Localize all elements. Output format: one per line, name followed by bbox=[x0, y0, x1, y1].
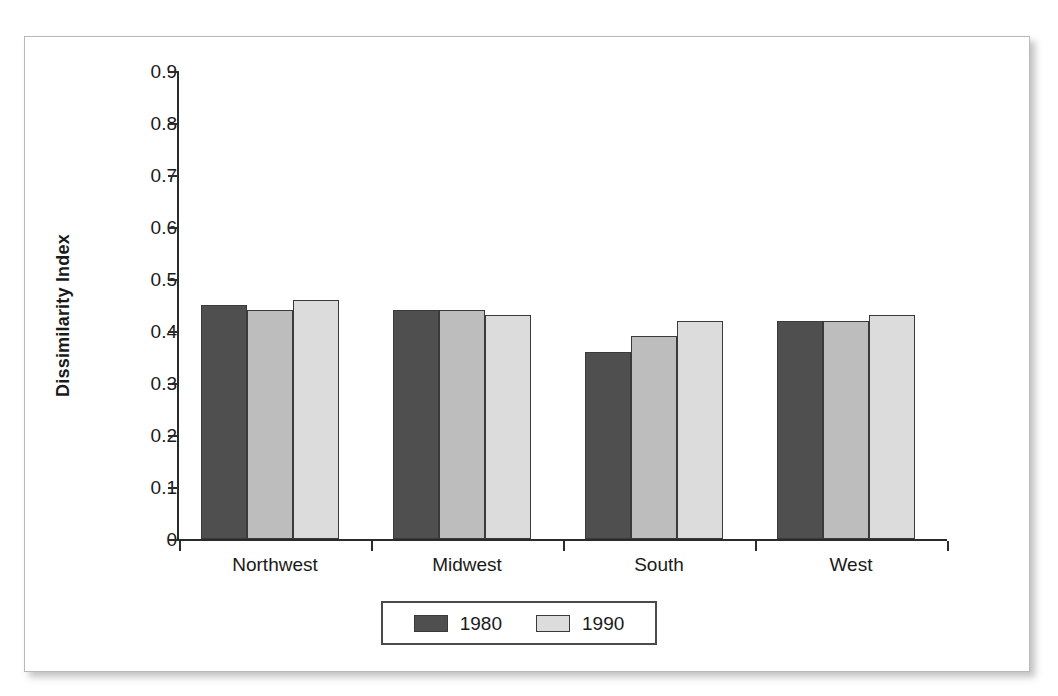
y-tick-mark bbox=[168, 331, 177, 333]
x-tick-mark bbox=[947, 541, 949, 551]
y-tick-mark bbox=[168, 539, 177, 541]
x-tick-mark bbox=[563, 541, 565, 551]
bar bbox=[585, 352, 631, 539]
y-axis-line bbox=[177, 71, 179, 541]
bar bbox=[201, 305, 247, 539]
x-axis-label: South bbox=[563, 555, 755, 574]
bar bbox=[293, 300, 339, 539]
chart-card: Dissimilarity Index 0.90.80.70.60.50.40.… bbox=[24, 36, 1030, 672]
x-tick-mark bbox=[371, 541, 373, 551]
bar bbox=[631, 336, 677, 539]
y-axis-title: Dissimilarity Index bbox=[53, 196, 74, 436]
bar bbox=[439, 310, 485, 539]
bar bbox=[247, 310, 293, 539]
legend-item: 1980 bbox=[414, 614, 502, 633]
bar bbox=[393, 310, 439, 539]
y-tick-mark bbox=[168, 383, 177, 385]
x-axis-label: Midwest bbox=[371, 555, 563, 574]
chart-legend: 1980 1990 bbox=[381, 601, 657, 645]
legend-item: 1990 bbox=[536, 614, 624, 633]
bar bbox=[677, 321, 723, 539]
x-tick-mark bbox=[179, 541, 181, 551]
x-axis-label: Northwest bbox=[179, 555, 371, 574]
x-axis-label: West bbox=[755, 555, 947, 574]
y-tick-mark bbox=[168, 227, 177, 229]
y-tick-mark bbox=[168, 71, 177, 73]
legend-swatch-icon bbox=[414, 615, 448, 632]
screenshot-root: Dissimilarity Index 0.90.80.70.60.50.40.… bbox=[0, 0, 1058, 696]
legend-swatch-icon bbox=[536, 615, 570, 632]
legend-item-label: 1980 bbox=[460, 614, 502, 633]
bar bbox=[777, 321, 823, 539]
y-tick-mark bbox=[168, 435, 177, 437]
y-tick-mark bbox=[168, 175, 177, 177]
bar bbox=[869, 315, 915, 539]
legend-item-label: 1990 bbox=[582, 614, 624, 633]
y-tick-mark bbox=[168, 487, 177, 489]
bar bbox=[485, 315, 531, 539]
x-axis-line bbox=[177, 539, 947, 541]
bar bbox=[823, 321, 869, 539]
bar-chart-plot-area: Dissimilarity Index 0.90.80.70.60.50.40.… bbox=[25, 37, 1031, 673]
y-tick-mark bbox=[168, 123, 177, 125]
x-tick-mark bbox=[755, 541, 757, 551]
y-tick-mark bbox=[168, 279, 177, 281]
